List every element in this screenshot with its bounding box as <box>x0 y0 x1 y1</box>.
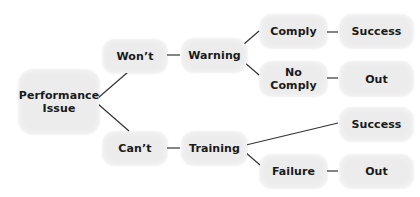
edge-root-wont <box>98 72 128 98</box>
node-label-line1: Performance <box>19 89 100 102</box>
node-success-top: Success <box>340 15 413 48</box>
edge-training-failure <box>245 152 260 165</box>
node-training: Training <box>182 132 247 165</box>
node-label: Can’t <box>118 142 151 155</box>
node-warning: Warning <box>182 39 247 72</box>
node-label: Success <box>351 118 401 131</box>
node-label: Warning <box>188 49 241 62</box>
edge-root-cant <box>98 104 129 131</box>
node-success-bottom: Success <box>340 108 413 141</box>
node-comply: Comply <box>260 15 327 48</box>
node-label-line2: Comply <box>270 79 317 92</box>
node-wont: Won’t <box>103 40 167 73</box>
node-label: Out <box>365 165 388 178</box>
node-performance-issue: Performance Issue <box>19 70 99 134</box>
node-label-line2: Issue <box>19 102 100 115</box>
edge-training-success <box>246 123 338 145</box>
node-label: Success <box>351 25 401 38</box>
node-out-bottom: Out <box>340 155 413 188</box>
node-label: Failure <box>272 165 315 178</box>
node-out-top: Out <box>340 62 413 96</box>
node-cant: Can’t <box>103 132 167 165</box>
node-label: Comply <box>270 25 317 38</box>
node-label: Out <box>365 73 388 86</box>
node-label: Training <box>189 142 240 155</box>
edge-warning-comply <box>244 31 259 44</box>
node-label-line1: No <box>270 66 317 79</box>
node-label: Won’t <box>116 50 153 63</box>
decision-tree-diagram: Performance Issue Won’t Can’t Warning Tr… <box>0 0 420 197</box>
node-no-comply: No Comply <box>260 62 327 96</box>
node-failure: Failure <box>260 155 327 188</box>
